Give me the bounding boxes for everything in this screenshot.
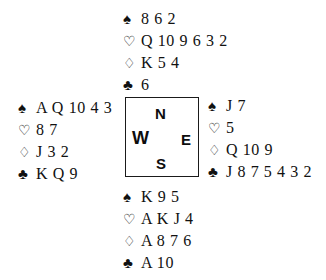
hand-north-spades: 8 6 2 [138,8,176,30]
hand-east-spades-row: ♠ J 7 [208,95,312,117]
hand-north-diamonds: K 5 4 [138,52,180,74]
hand-west: ♠ A Q 10 4 3 ♡ 8 7 ♢ J 3 2 ♣ K Q 9 [18,97,112,185]
hand-south-clubs: A 10 [138,252,174,274]
hand-north: ♠ 8 6 2 ♡ Q 10 9 6 3 2 ♢ K 5 4 ♣ 6 [123,8,228,96]
heart-icon: ♡ [123,31,138,53]
hand-north-clubs-row: ♣ 6 [123,74,228,96]
hand-east-spades: J 7 [223,95,246,117]
hand-north-hearts: Q 10 9 6 3 2 [138,30,228,52]
hand-south-diamonds: A 8 7 6 [138,230,192,252]
hand-west-hearts: 8 7 [33,119,58,141]
hand-south: ♠ K 9 5 ♡ A K J 4 ♢ A 8 7 6 ♣ A 10 [123,186,194,274]
hand-east-hearts-row: ♡ 5 [208,117,312,139]
diamond-icon: ♢ [123,231,138,253]
hand-west-diamonds: J 3 2 [33,141,69,163]
hand-south-hearts-row: ♡ A K J 4 [123,208,194,230]
compass-label-south: S [156,156,166,171]
compass-box: N W E S [125,97,199,177]
hand-south-diamonds-row: ♢ A 8 7 6 [123,230,194,252]
club-icon: ♣ [123,252,138,274]
hand-south-clubs-row: ♣ A 10 [123,252,194,274]
club-icon: ♣ [123,74,138,96]
hand-east-clubs-row: ♣ J 8 7 5 4 3 2 [208,161,312,183]
club-icon: ♣ [18,163,33,185]
diamond-icon: ♢ [123,53,138,75]
hand-east-clubs: J 8 7 5 4 3 2 [223,161,312,183]
heart-icon: ♡ [18,120,33,142]
hand-west-clubs-row: ♣ K Q 9 [18,163,112,185]
hand-north-spades-row: ♠ 8 6 2 [123,8,228,30]
club-icon: ♣ [208,161,223,183]
spade-icon: ♠ [123,8,138,30]
hand-east-hearts: 5 [223,117,235,139]
diamond-icon: ♢ [208,140,223,162]
spade-icon: ♠ [18,97,33,119]
bridge-deal-diagram: ♠ 8 6 2 ♡ Q 10 9 6 3 2 ♢ K 5 4 ♣ 6 ♠ A Q… [0,0,326,280]
hand-east-diamonds-row: ♢ Q 10 9 [208,139,312,161]
hand-west-spades-row: ♠ A Q 10 4 3 [18,97,112,119]
hand-west-clubs: K Q 9 [33,163,78,185]
heart-icon: ♡ [208,118,223,140]
hand-west-spades: A Q 10 4 3 [33,97,112,119]
hand-east: ♠ J 7 ♡ 5 ♢ Q 10 9 ♣ J 8 7 5 4 3 2 [208,95,312,183]
diamond-icon: ♢ [18,142,33,164]
compass-label-east: E [181,132,191,147]
hand-south-spades-row: ♠ K 9 5 [123,186,194,208]
hand-north-diamonds-row: ♢ K 5 4 [123,52,228,74]
spade-icon: ♠ [123,186,138,208]
hand-east-diamonds: Q 10 9 [223,139,273,161]
hand-south-spades: K 9 5 [138,186,180,208]
hand-west-diamonds-row: ♢ J 3 2 [18,141,112,163]
compass-label-north: N [155,106,166,121]
hand-north-hearts-row: ♡ Q 10 9 6 3 2 [123,30,228,52]
hand-north-clubs: 6 [138,74,150,96]
hand-west-hearts-row: ♡ 8 7 [18,119,112,141]
hand-south-hearts: A K J 4 [138,208,194,230]
compass-label-west: W [132,129,149,147]
heart-icon: ♡ [123,209,138,231]
spade-icon: ♠ [208,95,223,117]
